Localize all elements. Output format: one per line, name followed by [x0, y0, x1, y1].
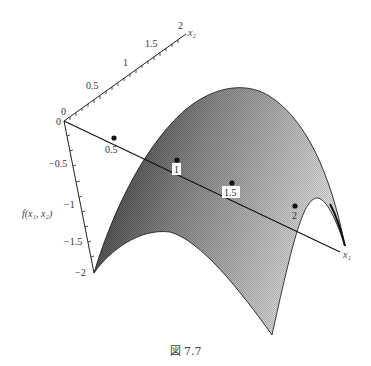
z-tick-neg1: −1 — [64, 199, 75, 210]
surface — [94, 88, 345, 335]
z-tick-neg1.5: −1.5 — [64, 236, 82, 247]
surface-plot: 0 0.5 1 1.5 2 x₂ 0 −0.5 −1 −1.5 −2 f(x₁,… — [0, 0, 371, 366]
z-axis-label: f(x₁, x₂) — [22, 208, 53, 220]
point-2 — [292, 203, 297, 208]
x2-axis: 0 0.5 1 1.5 2 x₂ — [61, 20, 196, 121]
point-1 — [174, 157, 179, 162]
x2-tick-1.5: 1.5 — [145, 38, 158, 49]
x1-tick-1: 1 — [174, 164, 179, 175]
z-axis: 0 −0.5 −1 −1.5 −2 f(x₁, x₂) — [22, 116, 94, 278]
x1-tick-1.5: 1.5 — [224, 187, 237, 198]
x2-tick-1: 1 — [123, 57, 128, 68]
z-tick-0: 0 — [56, 116, 61, 127]
x2-axis-label: x₂ — [187, 27, 196, 38]
z-tick-neg0.5: −0.5 — [49, 158, 67, 169]
x2-tick-2: 2 — [178, 20, 183, 31]
point-0.5 — [111, 135, 116, 140]
x2-tick-0.5: 0.5 — [86, 80, 99, 91]
point-1.5 — [229, 180, 234, 185]
z-tick-neg2: −2 — [75, 267, 86, 278]
x1-axis-label: x₁ — [342, 249, 351, 260]
figure-caption: 図 7.7 — [0, 342, 371, 358]
x2-tick-0: 0 — [61, 106, 66, 117]
x1-tick-2: 2 — [292, 210, 297, 221]
x1-tick-0.5: 0.5 — [105, 144, 118, 155]
